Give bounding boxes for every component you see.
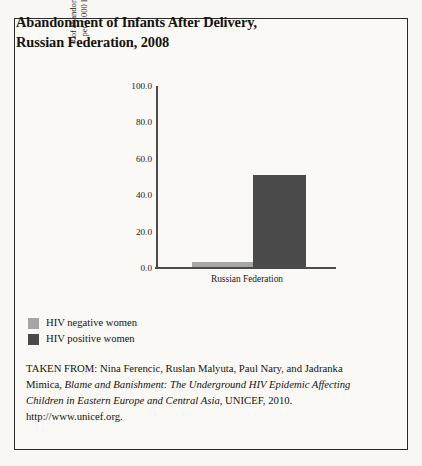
- chart-legend: HIV negative womenHIV positive women: [28, 316, 308, 348]
- y-axis-tick-20-0: 20.0: [108, 227, 152, 237]
- legend-item: HIV positive women: [28, 332, 308, 346]
- plot-area: Russian Federation: [156, 86, 336, 268]
- figure-title-line-1: Abandonment of Infants After Delivery,: [16, 12, 366, 32]
- figure-title-line-2: Russian Federation, 2008: [16, 32, 366, 52]
- bar-hiv-negative-women: [192, 262, 253, 267]
- y-axis-tick-labels: 0.020.040.060.080.0100.0: [108, 86, 152, 268]
- citation-work-title: Blame and Banishment: The Underground HI…: [26, 378, 350, 406]
- legend-item: HIV negative women: [28, 316, 308, 330]
- x-axis-category-label: Russian Federation: [152, 274, 342, 284]
- y-axis-line: [156, 86, 158, 268]
- legend-label: HIV positive women: [46, 334, 135, 345]
- legend-label: HIV negative women: [46, 318, 137, 329]
- source-citation: TAKEN FROM: Nina Ferencic, Ruslan Malyut…: [26, 360, 378, 424]
- x-axis-line: [155, 267, 336, 269]
- legend-swatch-icon: [28, 334, 39, 345]
- y-axis-tick-80-0: 80.0: [108, 117, 152, 127]
- y-axis-tick-60-0: 60.0: [108, 154, 152, 164]
- bar-chart: # of abandoned children per 1,000 live b…: [16, 62, 376, 292]
- y-axis-tick-0-0: 0.0: [108, 263, 152, 273]
- figure-title: Abandonment of Infants After Delivery, R…: [16, 12, 366, 53]
- y-axis-tick-100-0: 100.0: [108, 81, 152, 91]
- legend-swatch-icon: [28, 318, 39, 329]
- figure-page: Abandonment of Infants After Delivery, R…: [0, 0, 422, 466]
- bar-hiv-positive-women: [253, 175, 306, 267]
- y-axis-tick-40-0: 40.0: [108, 190, 152, 200]
